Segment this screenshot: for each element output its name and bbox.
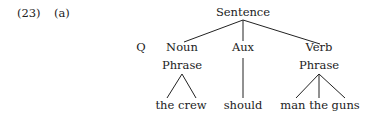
example-number: (23) (17, 7, 41, 20)
example-sub-label: (a) (54, 7, 70, 20)
edge-vp-left (296, 74, 319, 98)
node-vp-line2: Phrase (299, 59, 339, 72)
edge-np-right (182, 74, 196, 98)
leaf-np: the crew (155, 99, 206, 112)
node-aux: Aux (232, 41, 254, 54)
node-np-line1: Noun (166, 41, 198, 54)
node-sentence: Sentence (216, 6, 270, 19)
node-np-line2: Phrase (162, 59, 202, 72)
leaf-aux: should (224, 99, 263, 112)
node-q: Q (136, 41, 145, 54)
edge-vp-right (319, 74, 345, 98)
leaf-vp: man the guns (280, 99, 359, 112)
edge-np-left (167, 74, 182, 98)
node-vp-line1: Verb (306, 41, 333, 54)
edge-sentence-to-np (184, 20, 243, 42)
